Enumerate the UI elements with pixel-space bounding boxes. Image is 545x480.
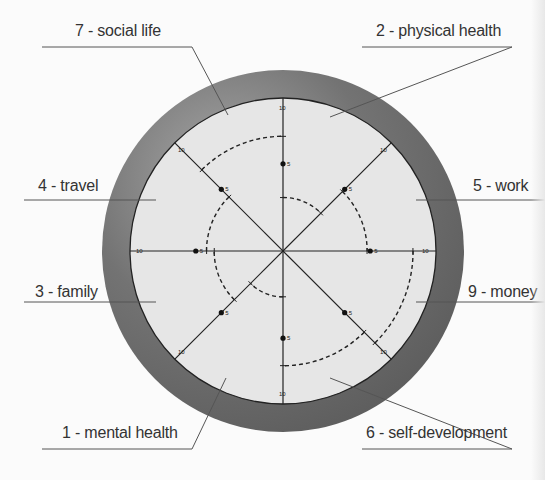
- half-marker-dot: [219, 310, 224, 315]
- sector-label: 2 - physical health: [376, 22, 501, 40]
- tick-label-10: 10: [279, 391, 286, 397]
- sector-label: 9 - money: [468, 283, 537, 301]
- tick-label-10: 10: [422, 248, 429, 254]
- sector-label: 7 - social life: [75, 22, 161, 40]
- leader-line: [330, 47, 512, 117]
- half-marker-dot: [219, 187, 224, 192]
- page-edge-shadow: [531, 0, 545, 480]
- tick-label-10: 10: [178, 147, 185, 153]
- tick-label-10: 10: [380, 147, 387, 153]
- wheel-of-life-diagram: 510510510510510510510510: [0, 0, 545, 480]
- spokes: [130, 98, 436, 404]
- tick-label-10: 10: [178, 349, 185, 355]
- sector-label: 1 - mental health: [62, 424, 178, 442]
- half-marker-dot: [342, 310, 347, 315]
- tick-label-10: 10: [279, 105, 286, 111]
- half-marker-dot: [280, 336, 285, 341]
- half-marker-dot: [368, 248, 373, 253]
- tick-label-10: 10: [136, 248, 143, 254]
- sector-label: 6 - self-development: [366, 424, 507, 442]
- tick-label-10: 10: [380, 349, 387, 355]
- half-marker-dot: [280, 161, 285, 166]
- sector-label: 3 - family: [35, 283, 98, 301]
- sector-label: 5 - work: [473, 177, 528, 195]
- sector-label: 4 - travel: [38, 177, 98, 195]
- half-marker-dot: [193, 248, 198, 253]
